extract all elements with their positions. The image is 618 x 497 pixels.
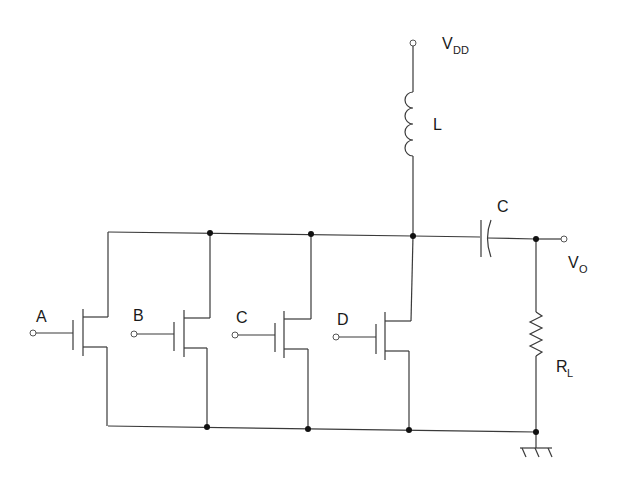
capacitor-label: C — [497, 198, 509, 215]
vo-label: V — [568, 254, 579, 271]
cap-left-wire — [413, 236, 480, 237]
vdd-terminal — [410, 40, 416, 92]
circuit-diagram: V DD L C V O R L — [0, 0, 618, 497]
ground-icon — [520, 448, 552, 457]
vdd-subscript: DD — [453, 44, 469, 56]
junction-nodes — [204, 230, 539, 435]
input-a-label: A — [36, 308, 47, 325]
capacitor-c — [481, 220, 536, 257]
vdd-label: V — [442, 35, 453, 52]
top-rail — [108, 232, 413, 236]
input-c-label: C — [236, 309, 248, 326]
input-d-label: D — [337, 311, 349, 328]
vo-terminal — [536, 236, 567, 242]
vo-subscript: O — [579, 263, 588, 275]
resistor-subscript: L — [567, 367, 573, 379]
transistor-d — [333, 236, 413, 430]
inductor-label: L — [433, 116, 442, 133]
resistor-label: R — [556, 358, 568, 375]
transistor-b — [131, 233, 210, 427]
input-b-label: B — [133, 307, 144, 324]
resistor-rl — [530, 239, 542, 448]
transistor-a — [30, 232, 108, 426]
bottom-rail — [108, 426, 536, 432]
transistor-c — [232, 234, 311, 429]
inductor-l — [405, 92, 413, 236]
